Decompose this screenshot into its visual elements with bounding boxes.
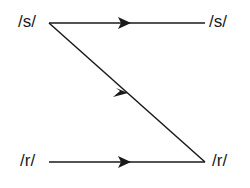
arrowhead-icon [113, 88, 128, 97]
edge-s-to-r [49, 23, 205, 162]
arrow-diagram [0, 0, 250, 188]
